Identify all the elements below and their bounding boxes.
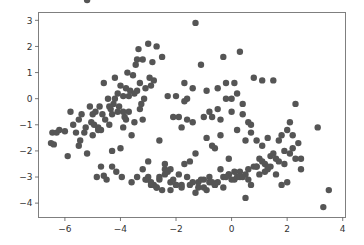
data-point [206,109,212,115]
data-point [223,96,229,102]
data-point [120,93,126,99]
data-point [153,184,159,190]
data-point [103,176,109,182]
data-point [128,179,134,185]
data-point [206,174,212,180]
data-point [128,132,134,138]
data-point [90,132,96,138]
data-point [226,156,232,162]
data-point [117,82,123,88]
data-point [217,116,223,122]
data-point [190,119,196,125]
data-point [290,145,296,151]
y-tick-label: −3 [19,172,32,182]
data-point [315,124,321,130]
data-point [203,135,209,141]
data-point [135,46,141,52]
data-point [117,145,123,151]
x-tick-label: −4 [114,224,128,234]
data-point [120,124,126,130]
data-point [278,132,284,138]
data-point [181,80,187,86]
data-point [62,128,68,134]
data-point [101,80,107,86]
data-point [105,96,111,102]
data-point [326,187,332,193]
data-point [256,171,262,177]
data-point [203,187,209,193]
data-point [184,116,190,122]
x-tick-label: −2 [169,224,182,234]
data-point [220,54,226,60]
data-point [145,158,151,164]
data-point [190,85,196,91]
data-point [173,182,179,188]
data-point [148,179,154,185]
data-point [273,171,279,177]
y-tick-label: 1 [27,68,33,78]
data-point [223,80,229,86]
data-point [290,132,296,138]
data-point [190,179,196,185]
data-point [231,169,237,175]
data-point [123,116,129,122]
data-point [142,176,148,182]
data-point [184,174,190,180]
data-point [320,204,326,210]
y-tick-label: −2 [19,146,32,156]
data-point [106,122,112,128]
data-point [78,111,84,117]
data-point [217,166,223,172]
data-point [134,88,140,94]
data-point [137,106,143,112]
data-point [102,116,108,122]
y-tick-label: 3 [27,16,33,26]
data-point [245,119,251,125]
data-point [248,182,254,188]
data-point [153,43,159,49]
data-point [65,153,71,159]
data-point [198,176,204,182]
data-point [83,124,89,130]
data-point [96,103,102,109]
data-point [142,85,148,91]
y-tick-label: 2 [27,42,33,52]
data-point [112,75,118,81]
data-point [192,150,198,156]
data-point [287,119,293,125]
data-point [106,103,112,109]
data-point [240,174,246,180]
data-point [240,111,246,117]
data-point [140,56,146,62]
data-point [298,166,304,172]
x-tick-label: −6 [58,224,72,234]
data-point [181,98,187,104]
y-tick-label: 0 [27,94,33,104]
data-point [126,109,132,115]
data-point [220,184,226,190]
data-point [84,150,90,156]
data-point [217,132,223,138]
data-point [242,195,248,201]
data-point [148,82,154,88]
data-point [67,109,73,115]
data-point [162,161,168,167]
data-point [124,69,130,75]
data-point [109,163,115,169]
data-point [209,143,215,149]
data-point [201,114,207,120]
data-point [56,127,62,133]
data-point [187,158,193,164]
data-point [292,101,298,107]
data-point [228,176,234,182]
data-point [109,111,115,117]
data-point [113,169,119,175]
data-point [259,143,265,149]
data-point [131,119,137,125]
data-point [231,80,237,86]
data-point [273,156,279,162]
data-point [141,96,147,102]
data-point [242,137,248,143]
data-point [173,93,179,99]
data-point [170,114,176,120]
